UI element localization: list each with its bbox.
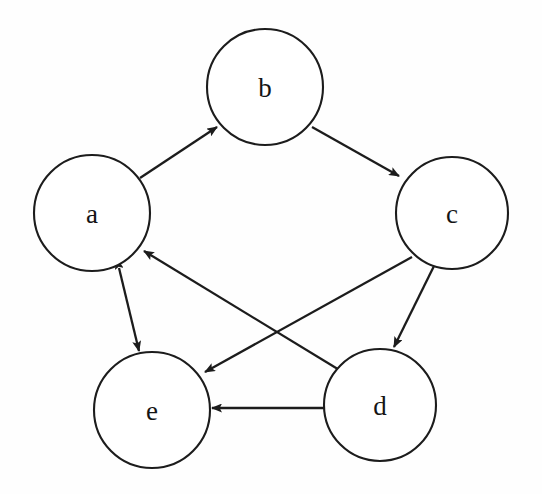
directed-graph: abcde bbox=[0, 0, 542, 494]
node-label-e: e bbox=[146, 396, 158, 426]
edge-d-to-a bbox=[144, 251, 341, 371]
edge-c-to-d bbox=[394, 266, 434, 347]
graph-canvas: abcde bbox=[0, 0, 542, 494]
edge-a-and-e bbox=[119, 268, 139, 351]
node-c[interactable]: c bbox=[396, 157, 508, 269]
node-b[interactable]: b bbox=[207, 29, 323, 145]
node-label-c: c bbox=[446, 199, 458, 229]
node-label-d: d bbox=[373, 391, 387, 421]
edge-b-to-c bbox=[312, 127, 399, 176]
node-a[interactable]: a bbox=[34, 155, 150, 271]
nodes-layer: abcde bbox=[34, 29, 508, 468]
node-label-b: b bbox=[258, 73, 272, 103]
node-label-a: a bbox=[86, 199, 98, 229]
node-d[interactable]: d bbox=[324, 349, 436, 461]
node-e[interactable]: e bbox=[94, 352, 210, 468]
edge-a-to-b bbox=[140, 127, 217, 178]
